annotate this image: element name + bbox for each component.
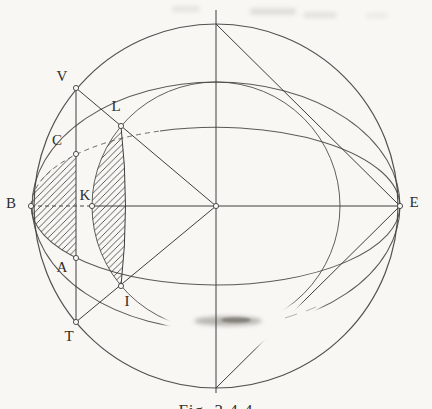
point-marker-K <box>89 203 94 208</box>
point-marker-E <box>397 203 402 208</box>
scanned-figure-page: VLCBKAITE Fig. 3.4.4 <box>0 0 432 409</box>
geometry-figure: VLCBKAITE <box>0 0 432 409</box>
point-marker-C <box>73 151 78 156</box>
point-marker-A <box>73 255 78 260</box>
point-label-V: V <box>57 68 68 84</box>
point-marker-B <box>28 203 33 208</box>
ink-smudge-core <box>221 317 251 323</box>
point-label-E: E <box>409 194 418 210</box>
point-marker-I <box>118 283 123 288</box>
point-label-A: A <box>57 259 68 275</box>
point-label-K: K <box>80 187 91 203</box>
point-label-B: B <box>6 195 16 211</box>
point-label-L: L <box>111 98 120 114</box>
point-marker-V <box>73 85 78 90</box>
point-label-I: I <box>125 293 130 309</box>
point-marker-T <box>73 319 78 324</box>
figure-caption: Fig. 3.4.4 <box>0 401 432 409</box>
point-marker-L <box>118 123 123 128</box>
point-marker-center <box>213 203 218 208</box>
point-label-C: C <box>52 132 62 148</box>
line-bottom-to-e <box>216 206 400 388</box>
point-label-T: T <box>64 328 73 344</box>
line-top-to-e <box>216 24 400 206</box>
